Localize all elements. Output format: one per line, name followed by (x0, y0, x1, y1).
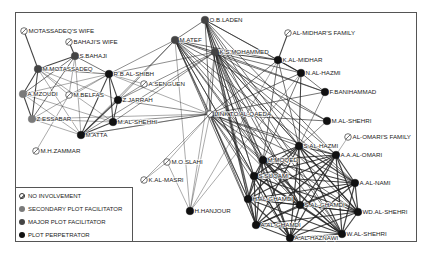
legend-label: MAJOR PLOT FACILITATOR (28, 219, 106, 225)
node-m-h-zammar[interactable]: M.H.ZAMMAR (33, 147, 81, 154)
node-label: M.AL-SHEHRI (332, 117, 372, 124)
perpetrator-node-icon (321, 88, 329, 96)
node-label: M.MOTASSADEQ (43, 65, 93, 72)
perpetrator-node-icon (296, 201, 304, 209)
node-label: A.AL-GHAMDI (261, 221, 302, 228)
perpetrator-node-icon (250, 172, 258, 180)
perpetrator-node-icon (114, 96, 122, 104)
node-label: Z.ESSABAR (37, 115, 72, 122)
edge (299, 92, 325, 146)
node-z-essabar[interactable]: Z.ESSABAR (28, 115, 72, 123)
legend-item-no-involvement: NO INVOLVEMENT (19, 193, 81, 199)
legend-label: PLOT PERPETRATOR (28, 232, 90, 238)
node-label: R.B.AL-SHIBH (114, 70, 155, 77)
node-s-al-ghamdi[interactable]: S.AL-GHAMDI (296, 201, 345, 209)
node-label: A.AL-NAMI (360, 179, 391, 186)
edge (175, 40, 256, 225)
major-node-icon (211, 48, 219, 56)
node-label: M.AL-SHEHHI (118, 118, 158, 125)
node-a-al-ghamdi[interactable]: A.AL-GHAMDI (252, 221, 301, 229)
node-al-midhar-family[interactable]: AL-MIDHAR'S FAMILY (285, 29, 355, 36)
node-label: M.MOQED (268, 156, 299, 163)
node-al-omari-family[interactable]: AL-OMARI'S FAMILY (345, 133, 411, 140)
node-label: WD.AL-SHEHRI (363, 208, 408, 215)
node-h-al-ghamdi[interactable]: H.AL-GHAMDI (244, 195, 293, 203)
node-h-hanjour[interactable]: H.HANJOUR (186, 207, 231, 215)
perpetrator-node-icon (354, 208, 362, 216)
node-motassadeq-wife[interactable]: MOTASSADEQ'S WIFE (21, 27, 95, 34)
node-k-s-mohammed[interactable]: K.S.MOHAMMED (211, 48, 269, 56)
node-m-atta[interactable]: M.ATTA (77, 131, 108, 139)
edge (69, 56, 75, 95)
node-label: A.AL-HAZNAWI (295, 234, 339, 241)
secondary-facilitator-icon (19, 206, 25, 212)
legend-item-secondary: SECONDARY PLOT FACILITATOR (19, 206, 122, 212)
legend: NO INVOLVEMENT SECONDARY PLOT FACILITATO… (15, 187, 133, 242)
node-m-motassadeq[interactable]: M.MOTASSADEQ (34, 65, 93, 73)
node-label: Z.JARRAH (123, 96, 153, 103)
node-m-belfas[interactable]: M.BELFAS (66, 91, 104, 98)
secondary-node-icon (19, 90, 27, 98)
perpetrator-node-icon (286, 234, 294, 242)
perpetrator-node-icon (252, 221, 260, 229)
node-label: S.SUQAMI (259, 172, 290, 179)
node-label: A.MZOUDI (28, 90, 59, 97)
node-m-atef[interactable]: M.ATEF (171, 36, 202, 44)
node-label: M.BELFAS (74, 91, 104, 98)
node-a-a-al-omari[interactable]: A.A.AL-OMARI (332, 151, 382, 159)
node-label: BAHAJI'S WIFE (74, 38, 118, 45)
no-involvement-icon (19, 193, 25, 199)
edge (23, 56, 75, 94)
perpetrator-node-icon (351, 179, 359, 187)
node-label: A.A.AL-OMARI (341, 151, 383, 158)
node-label: M.ATEF (180, 36, 202, 43)
perpetrator-node-icon (186, 207, 194, 215)
perpetrator-node-icon (295, 142, 303, 150)
node-label: S.BAHAJI (80, 52, 108, 59)
node-z-jarrah[interactable]: Z.JARRAH (114, 96, 153, 104)
node-a-mzoudi[interactable]: A.MZOUDI (19, 90, 58, 98)
edge (24, 31, 38, 69)
node-a-al-haznawi[interactable]: A.AL-HAZNAWI (286, 234, 338, 242)
perpetrator-node-icon (274, 56, 282, 64)
node-label: M.H.ZAMMAR (41, 147, 81, 154)
node-bahaji-wife[interactable]: BAHAJI'S WIFE (66, 38, 118, 45)
node-label: M.ATTA (86, 131, 109, 138)
node-label: K.AL-MIDHAR (283, 56, 323, 63)
edge (205, 20, 263, 160)
node-m-moqed[interactable]: M.MOQED (259, 156, 298, 164)
major-facilitator-icon (19, 219, 25, 225)
node-n-al-hazmi[interactable]: N.AL-HAZMI (297, 69, 341, 77)
node-label: AL-MIDHAR'S FAMILY (293, 29, 356, 36)
node-wd-al-shehri[interactable]: WD.AL-SHEHRI (354, 208, 408, 216)
node-label: K.S.MOHAMMED (220, 48, 270, 55)
node-s-bahaji[interactable]: S.BAHAJI (71, 52, 107, 60)
node-label: F.BANIHAMMAD (330, 88, 377, 95)
node-a-senguen[interactable]: A.SENGUEN (141, 80, 185, 87)
node-label: H.HANJOUR (195, 207, 232, 214)
node-o-b-laden[interactable]: O.B.LADEN (201, 16, 242, 24)
node-a-al-nami[interactable]: A.AL-NAMI (351, 179, 391, 187)
major-node-icon (201, 16, 209, 24)
edge (299, 73, 301, 146)
legend-item-perpetrator: PLOT PERPETRATOR (19, 232, 90, 238)
perpetrator-node-icon (338, 230, 346, 238)
perpetrator-node-icon (105, 70, 113, 78)
plot-perpetrator-icon (19, 232, 25, 238)
node-f-banihammad[interactable]: F.BANIHAMMAD (321, 88, 377, 96)
node-w-al-shehri[interactable]: W.AL-SHEHRI (338, 230, 387, 238)
legend-item-major: MAJOR PLOT FACILITATOR (19, 219, 106, 225)
major-node-icon (34, 65, 42, 73)
node-m-al-shehri[interactable]: M.AL-SHEHRI (323, 117, 371, 125)
node-s-suqami[interactable]: S.SUQAMI (250, 172, 289, 180)
edge (278, 60, 299, 146)
node-s-al-hazmi[interactable]: S.AL-HAZMI (295, 142, 338, 150)
node-label: M.O.SLAHI (172, 158, 204, 165)
major-node-icon (71, 52, 79, 60)
edge (299, 146, 300, 205)
node-label: W.AL-SHEHRI (347, 230, 388, 237)
node-label: S.AL-HAZMI (304, 142, 339, 149)
major-node-icon (171, 36, 179, 44)
node-r-b-al-shibh[interactable]: R.B.AL-SHIBH (105, 70, 154, 78)
node-link-to-al-qaeda[interactable]: LINK TO AL-QAEDA (207, 110, 272, 117)
